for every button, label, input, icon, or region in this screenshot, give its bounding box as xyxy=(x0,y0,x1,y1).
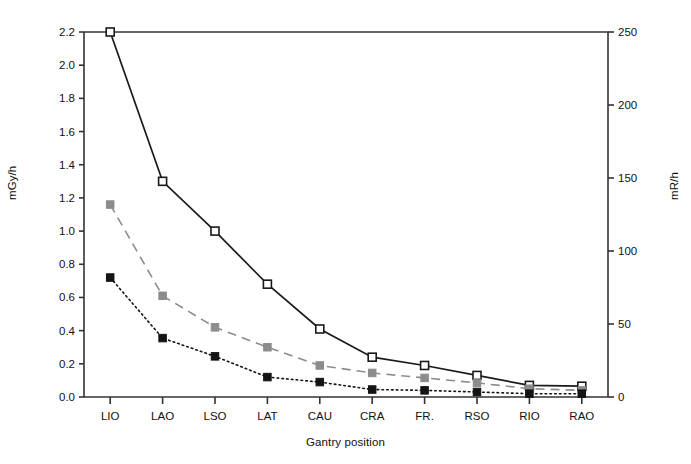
series-marker xyxy=(578,390,586,398)
x-axis-tick-label: CAU xyxy=(308,410,332,422)
y-axis-left-tick-label: 2.2 xyxy=(59,26,75,38)
x-axis-tick-label: CRA xyxy=(360,410,385,422)
series-line xyxy=(110,278,582,394)
series-marker xyxy=(421,361,429,369)
y-axis-right-tick-label: 150 xyxy=(618,172,637,184)
y-axis-left-tick-label: 0.2 xyxy=(59,358,75,370)
x-axis-tick-label: LIO xyxy=(101,410,120,422)
x-axis-tick-label: LAO xyxy=(151,410,174,422)
y-axis-left-tick-label: 1.0 xyxy=(59,225,75,237)
y-axis-left-tick-label: 0.8 xyxy=(59,258,75,270)
series-marker xyxy=(264,373,272,381)
series-marker xyxy=(106,274,114,282)
y-axis-left-tick-label: 1.2 xyxy=(59,192,75,204)
x-axis-tick-label: RSO xyxy=(465,410,490,422)
series-marker xyxy=(159,334,167,342)
series-marker xyxy=(159,177,167,185)
series-marker xyxy=(368,369,376,377)
series-marker xyxy=(421,374,429,382)
series-marker xyxy=(263,280,271,288)
y-axis-left-tick-label: 1.6 xyxy=(59,126,75,138)
y-axis-left-tick-label: 1.4 xyxy=(59,159,76,171)
y-axis-left-tick-label: 2.0 xyxy=(59,59,75,71)
series-marker xyxy=(421,387,429,395)
series-marker xyxy=(368,386,376,394)
series-marker xyxy=(316,325,324,333)
y-axis-left-tick-label: 0.4 xyxy=(59,325,76,337)
axis-layer: 0.00.20.40.60.81.01.21.41.61.82.02.20501… xyxy=(59,26,637,422)
series-marker xyxy=(264,343,272,351)
series-marker xyxy=(211,353,219,361)
series-marker xyxy=(473,379,481,387)
y-axis-left-tick-label: 0.6 xyxy=(59,291,75,303)
x-axis-tick-label: LSO xyxy=(203,410,226,422)
x-axis-tick-label: LAT xyxy=(257,410,277,422)
plot-area: 0.00.20.40.60.81.01.21.41.61.82.02.20501… xyxy=(0,0,691,464)
y-axis-right-tick-label: 200 xyxy=(618,99,637,111)
series-marker xyxy=(211,227,219,235)
series-marker xyxy=(316,378,324,386)
y-axis-left-tick-label: 1.8 xyxy=(59,92,75,104)
y-axis-right-tick-label: 250 xyxy=(618,26,637,38)
y-axis-right-tick-label: 100 xyxy=(618,245,637,257)
series-gray-square-dashed xyxy=(106,201,585,394)
series-marker xyxy=(159,292,167,300)
series-marker xyxy=(526,390,534,398)
chart-figure: mGy/h mR/h Gantry position 0.00.20.40.60… xyxy=(0,0,691,464)
series-open-square-solid xyxy=(106,28,586,390)
y-axis-left-tick-label: 0.0 xyxy=(59,391,75,403)
series-marker xyxy=(473,388,481,396)
series-marker xyxy=(211,324,219,332)
x-axis-tick-label: RIO xyxy=(519,410,540,422)
x-axis-tick-label: FR. xyxy=(415,410,434,422)
series-marker xyxy=(106,201,114,209)
series-black-square-dotted xyxy=(106,274,585,398)
series-marker xyxy=(316,362,324,370)
series-marker xyxy=(473,371,481,379)
series-marker xyxy=(368,353,376,361)
y-axis-right-tick-label: 50 xyxy=(618,318,631,330)
series-line xyxy=(110,205,582,391)
y-axis-right-tick-label: 0 xyxy=(618,391,624,403)
series-layer xyxy=(106,28,586,397)
x-axis-tick-label: RAO xyxy=(569,410,594,422)
series-line xyxy=(110,32,582,386)
series-marker xyxy=(106,28,114,36)
